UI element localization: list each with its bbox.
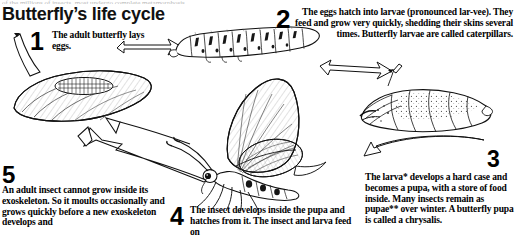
adult-butterfly-illustration	[167, 79, 326, 212]
step-number-2: 2	[276, 6, 290, 32]
arrow-pupa-to-adult	[364, 136, 484, 156]
life-cycle-diagram: of the millions of insects, most undergo…	[0, 0, 515, 246]
step-number-3: 3	[487, 148, 500, 171]
pupa-illustration	[360, 69, 493, 132]
page-title: Butterfly’s life cycle	[2, 4, 165, 24]
arrow-larva-to-pupa	[320, 60, 402, 79]
step-text-4: The insect develops inside the pupa and …	[190, 205, 362, 237]
step-text-1: The adult butterfly lays eggs.	[52, 30, 162, 51]
step-number-4: 4	[170, 204, 184, 229]
step-text-5: An adult insect cannot grow inside its e…	[2, 185, 172, 228]
egg-cluster	[55, 78, 113, 95]
step-number-1: 1	[30, 29, 44, 54]
step-number-5: 5	[2, 163, 15, 187]
step-text-2: The eggs hatch into larvae (pronounced l…	[295, 7, 513, 40]
arrow-adult-to-eggs	[78, 118, 206, 182]
step-text-3: The larva* develops a hard case and beco…	[365, 172, 515, 226]
